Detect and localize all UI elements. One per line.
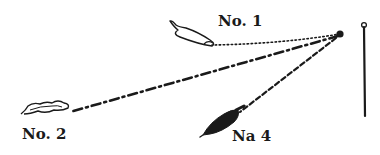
label-no4: Na 4 <box>232 127 271 145</box>
label-no1: No. 1 <box>218 12 262 30</box>
line-no2-dash-dot <box>70 36 338 112</box>
line-no1-dotted <box>212 34 340 45</box>
diagram-canvas: No. 1 No. 2 Na 4 <box>0 0 380 155</box>
object-no1-icon <box>170 21 214 46</box>
label-no2: No. 2 <box>22 125 66 143</box>
vertical-post-icon <box>362 23 367 116</box>
object-no2-icon <box>21 101 69 114</box>
anchor-point-icon <box>336 30 343 37</box>
